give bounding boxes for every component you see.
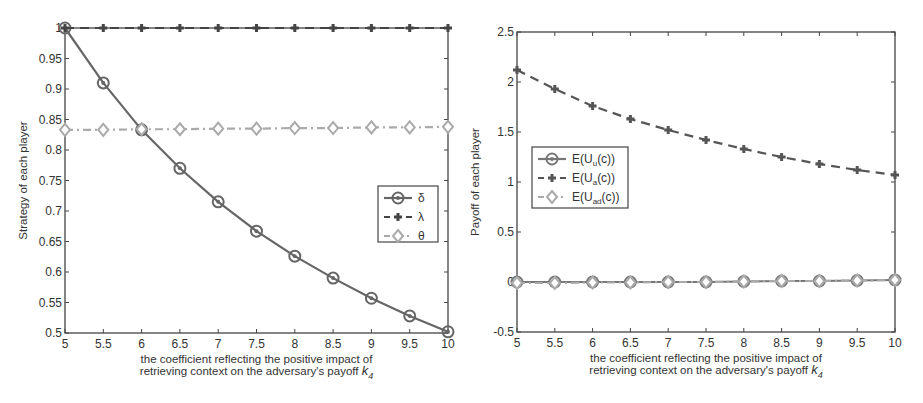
diamond-marker <box>98 124 108 136</box>
x-tick-label: 10 <box>441 337 455 351</box>
legend-label: δ <box>418 191 425 205</box>
diamond-marker <box>366 121 376 133</box>
x-tick-label: 9 <box>368 337 375 351</box>
x-tick-label: 7 <box>215 337 222 351</box>
y-tick-label: 0.7 <box>45 204 62 218</box>
x-tick-label: 8.5 <box>325 337 342 351</box>
x-tick-label: 6.5 <box>172 337 189 351</box>
x-tick-label: 7.5 <box>698 336 715 350</box>
x-tick-label: 9 <box>816 336 823 350</box>
plus-marker <box>176 24 184 32</box>
series-2 <box>60 121 453 136</box>
y-tick-label: 0.5 <box>45 326 62 340</box>
diamond-marker <box>405 121 415 133</box>
y-tick-label: 1.5 <box>497 125 514 139</box>
y-tick-label: 0.9 <box>45 82 62 96</box>
legend-label: λ <box>418 210 424 224</box>
x-axis-label-line1: the coefficient reflecting the positive … <box>141 353 374 365</box>
plus-marker <box>253 24 261 32</box>
circle-marker-dot <box>369 296 373 300</box>
plot-area <box>65 28 448 333</box>
x-tick-label: 9.5 <box>401 337 418 351</box>
circle-marker-dot <box>408 314 412 318</box>
legend: E(Uu(c))E(Ua(c))E(Uad(c)) <box>532 147 628 208</box>
x-tick-label: 5.5 <box>95 337 112 351</box>
diamond-marker <box>328 122 338 134</box>
x-tick-label: 5 <box>62 337 69 351</box>
plus-marker <box>853 166 861 174</box>
x-tick-label: 8.5 <box>773 336 790 350</box>
x-tick-label: 7.5 <box>248 337 265 351</box>
legend: δλθ <box>378 186 438 243</box>
circle-marker-dot <box>550 157 554 161</box>
y-axis-label: Strategy of each player <box>17 121 29 239</box>
x-tick-label: 10 <box>888 336 902 350</box>
x-tick-label: 6 <box>138 337 145 351</box>
plus-marker <box>291 24 299 32</box>
series-line <box>65 28 448 332</box>
plus-marker <box>891 171 899 179</box>
plus-marker <box>589 102 597 110</box>
y-tick-label: 0.8 <box>45 143 62 157</box>
payoff-chart: 55.566.577.588.599.510-0.500.511.522.5th… <box>460 0 923 403</box>
y-tick-label: 0.5 <box>497 225 514 239</box>
x-tick-label: 5.5 <box>546 336 563 350</box>
circle-marker-dot <box>293 254 297 258</box>
y-tick-label: 1 <box>507 175 514 189</box>
y-tick-label: 0.75 <box>39 174 63 188</box>
y-tick-label: -0.5 <box>493 325 514 339</box>
diamond-marker <box>213 123 223 135</box>
diamond-marker <box>175 123 185 135</box>
plus-marker <box>664 126 672 134</box>
strategy-chart-svg: 55.566.577.588.599.5100.50.550.60.650.70… <box>0 0 460 403</box>
y-tick-label: 0.95 <box>39 52 63 66</box>
legend-label: θ <box>418 229 425 243</box>
x-tick-label: 8 <box>291 337 298 351</box>
circle-marker-dot <box>255 229 259 233</box>
x-tick-label: 6 <box>589 336 596 350</box>
circle-marker-dot <box>178 166 182 170</box>
legend-box <box>378 186 438 242</box>
payoff-chart-svg: 55.566.577.588.599.510-0.500.511.522.5th… <box>460 0 923 403</box>
plus-marker <box>702 136 710 144</box>
y-tick-label: 0.85 <box>39 113 63 127</box>
circle-marker-dot <box>396 196 400 200</box>
x-tick-label: 9.5 <box>849 336 866 350</box>
x-tick-label: 7 <box>665 336 672 350</box>
circle-marker-dot <box>446 330 450 334</box>
plus-marker <box>778 153 786 161</box>
x-tick-label: 5 <box>514 336 521 350</box>
strategy-chart: 55.566.577.588.599.5100.50.550.60.650.70… <box>0 0 460 403</box>
plus-marker <box>367 24 375 32</box>
plus-marker <box>626 115 634 123</box>
plus-marker <box>444 24 452 32</box>
y-tick-label: 0.55 <box>39 296 63 310</box>
diamond-marker <box>290 122 300 134</box>
plus-marker <box>551 85 559 93</box>
diamond-marker <box>252 123 262 135</box>
circle-marker-dot <box>216 200 220 204</box>
series-0 <box>60 23 454 338</box>
plus-marker <box>815 160 823 168</box>
x-tick-label: 6.5 <box>622 336 639 350</box>
plus-marker <box>138 24 146 32</box>
plus-marker <box>329 24 337 32</box>
x-axis-label-line2: retrieving context on the adversary's pa… <box>589 362 822 380</box>
diamond-marker <box>443 121 453 133</box>
x-axis-label-line1: the coefficient reflecting the positive … <box>590 352 823 364</box>
plus-marker <box>513 66 521 74</box>
plus-marker <box>214 24 222 32</box>
y-tick-label: 0.6 <box>45 265 62 279</box>
plus-marker <box>406 24 414 32</box>
x-tick-label: 8 <box>740 336 747 350</box>
plus-marker <box>99 24 107 32</box>
y-tick-label: 2 <box>507 75 514 89</box>
y-tick-label: 2.5 <box>497 25 514 39</box>
y-axis-label: Payoff of each player <box>469 128 481 236</box>
circle-marker-dot <box>101 81 105 85</box>
y-tick-label: 0.65 <box>39 235 63 249</box>
circle-marker-dot <box>331 276 335 280</box>
x-axis-label-line2: retrieving context on the adversary's pa… <box>140 363 373 381</box>
plus-marker <box>740 145 748 153</box>
